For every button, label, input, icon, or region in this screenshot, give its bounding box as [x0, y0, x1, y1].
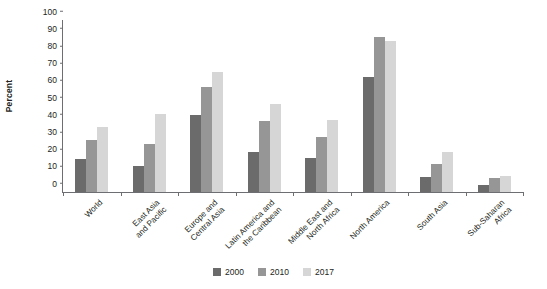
- y-axis-tick: 10: [37, 162, 63, 171]
- x-axis-label-line: World: [83, 198, 105, 220]
- bar-group: [248, 20, 281, 192]
- bar-2017: [155, 114, 166, 192]
- bar-2017: [442, 152, 453, 192]
- y-axis-tick-mark: [60, 183, 63, 184]
- legend-label: 2010: [270, 268, 289, 277]
- legend-item[interactable]: 2010: [258, 268, 289, 277]
- x-axis-tick-mark: [523, 192, 524, 196]
- bar-2010: [431, 164, 442, 192]
- y-axis-tick-mark: [60, 97, 63, 98]
- x-axis-tick-mark: [466, 192, 467, 196]
- y-axis-tick: 30: [37, 128, 63, 137]
- bar-group: [190, 20, 223, 192]
- x-axis-label: Middle East andNorth Africa: [286, 198, 341, 253]
- y-axis-tick: 70: [37, 59, 63, 68]
- bar-2017: [212, 72, 223, 192]
- y-axis-tick-mark: [60, 11, 63, 12]
- x-axis-tick-mark: [351, 192, 352, 196]
- bar-2017: [97, 127, 108, 192]
- y-axis-tick-mark: [60, 166, 63, 167]
- legend-item[interactable]: 2000: [213, 268, 244, 277]
- bar-2010: [86, 140, 97, 192]
- bar-group: [75, 20, 108, 192]
- x-axis-label: North America: [349, 198, 392, 241]
- y-axis-tick-label: 0: [37, 179, 57, 188]
- y-axis-tick-mark: [60, 63, 63, 64]
- chart-legend: 200020102017: [0, 268, 547, 277]
- legend-label: 2017: [315, 268, 334, 277]
- y-axis-tick-mark: [60, 114, 63, 115]
- y-axis-tick: 40: [37, 110, 63, 119]
- y-axis-title: Percent: [4, 80, 14, 113]
- y-axis-tick-label: 20: [37, 145, 57, 154]
- y-axis-tick-mark: [60, 28, 63, 29]
- y-axis-tick-mark: [60, 149, 63, 150]
- bar-2000: [305, 158, 316, 192]
- plot-area: 0102030405060708090100: [63, 20, 523, 192]
- x-axis-label: Europe andCentral Asia: [182, 198, 227, 243]
- x-axis-label-line: North America: [349, 198, 392, 241]
- x-axis-label: World: [83, 198, 105, 220]
- y-axis-tick: 90: [37, 24, 63, 33]
- bar-2017: [270, 104, 281, 192]
- bar-2000: [133, 166, 144, 192]
- x-axis-label: Latin America andthe Caribbean: [224, 198, 284, 258]
- bar-chart: Percent 0102030405060708090100 WorldEast…: [0, 0, 547, 289]
- x-axis-tick-mark: [63, 192, 64, 196]
- bar-2010: [374, 37, 385, 192]
- legend-label: 2000: [225, 268, 244, 277]
- bar-2010: [316, 137, 327, 192]
- y-axis-tick: 50: [37, 93, 63, 102]
- x-axis-tick-mark: [408, 192, 409, 196]
- legend-item[interactable]: 2017: [303, 268, 334, 277]
- y-axis-tick-label: 90: [37, 24, 57, 33]
- y-axis-tick-label: 40: [37, 110, 57, 119]
- bar-2017: [327, 120, 338, 192]
- x-axis-label: Sub-SaharanAfrica: [466, 198, 514, 246]
- y-axis-tick-label: 30: [37, 128, 57, 137]
- bar-2000: [363, 77, 374, 192]
- x-axis-label-line: South Asia: [415, 198, 449, 232]
- bar-2010: [201, 87, 212, 192]
- y-axis-tick-label: 50: [37, 93, 57, 102]
- bar-group: [305, 20, 338, 192]
- y-axis-tick-mark: [60, 80, 63, 81]
- x-axis-tick-mark: [121, 192, 122, 196]
- y-axis-tick-label: 10: [37, 162, 57, 171]
- x-axis-label: South Asia: [415, 198, 449, 232]
- bar-2000: [190, 115, 201, 192]
- legend-swatch: [258, 268, 266, 276]
- y-axis-tick: 60: [37, 76, 63, 85]
- bar-2017: [385, 41, 396, 192]
- bar-2000: [248, 152, 259, 192]
- y-axis-tick: 100: [37, 7, 63, 16]
- x-axis-label: East Asiaand Pacific: [127, 198, 169, 240]
- legend-swatch: [213, 268, 221, 276]
- legend-swatch: [303, 268, 311, 276]
- bar-2017: [500, 176, 511, 192]
- bar-2010: [144, 144, 155, 192]
- x-axis-tick-mark: [236, 192, 237, 196]
- y-axis-tick-label: 80: [37, 42, 57, 51]
- y-axis-tick-label: 100: [37, 7, 57, 16]
- y-axis-tick: 0: [37, 179, 63, 188]
- bar-2010: [489, 178, 500, 192]
- bar-2000: [420, 177, 431, 192]
- bar-group: [420, 20, 453, 192]
- bar-2000: [75, 159, 86, 192]
- y-axis-tick-label: 70: [37, 59, 57, 68]
- x-axis-tick-mark: [293, 192, 294, 196]
- bar-group: [133, 20, 166, 192]
- bar-group: [478, 20, 511, 192]
- y-axis-tick-mark: [60, 131, 63, 132]
- bar-2010: [259, 121, 270, 192]
- y-axis-tick-mark: [60, 45, 63, 46]
- bar-2000: [478, 185, 489, 192]
- y-axis-tick-label: 60: [37, 76, 57, 85]
- x-axis-tick-mark: [178, 192, 179, 196]
- y-axis-tick: 20: [37, 145, 63, 154]
- bar-group: [363, 20, 396, 192]
- y-axis-tick: 80: [37, 42, 63, 51]
